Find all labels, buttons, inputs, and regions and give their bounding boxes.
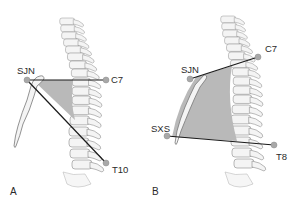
- landmark-dot-c7-b: [255, 54, 261, 60]
- landmark-dot-t10-a: [103, 160, 109, 166]
- sternum-a-icon: [14, 76, 44, 148]
- label-c7-a: C7: [111, 75, 123, 85]
- label-c7-b: C7: [265, 44, 277, 54]
- label-sjn-b: SJN: [181, 65, 199, 75]
- label-sxs-b: SXS: [151, 124, 170, 134]
- landmark-dot-sjn-a: [24, 77, 30, 83]
- label-t10-a: T10: [112, 165, 128, 175]
- landmark-dot-t8-b: [271, 142, 277, 148]
- figure-drawing: [0, 0, 300, 207]
- panel-a-drawing: [14, 18, 109, 187]
- label-t8-b: T8: [276, 152, 287, 162]
- panel-label-a: A: [10, 187, 17, 197]
- label-sjn-a: SJN: [17, 66, 35, 76]
- landmark-dot-sjn-b: [187, 76, 193, 82]
- panel-b-drawing: [164, 16, 277, 187]
- landmark-dot-c7-a: [103, 77, 109, 83]
- panel-label-b: B: [152, 187, 159, 197]
- spine-landmark-figure: SJN C7 T10 A SJN C7 SXS T8 B: [0, 0, 300, 207]
